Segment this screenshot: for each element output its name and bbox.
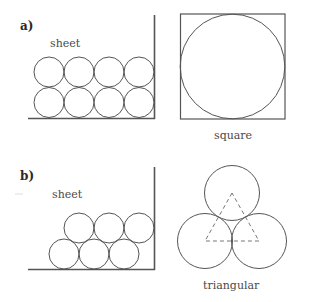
circle xyxy=(49,239,79,269)
bottom-right-circle xyxy=(232,214,287,269)
circle xyxy=(64,57,94,87)
inscribed-circle xyxy=(180,14,285,119)
panel-a-sheet-label: sheet xyxy=(50,37,81,50)
sheet-corner-a xyxy=(28,15,155,119)
triangular-packing-detail xyxy=(178,166,287,269)
triangular-stacked-circles xyxy=(49,213,154,269)
panel-a-label: a) xyxy=(20,19,33,33)
panel-b-sheet-label: sheet xyxy=(52,188,83,201)
circle xyxy=(79,239,109,269)
panel-a: a) sheet square xyxy=(20,14,285,142)
circle xyxy=(64,213,94,243)
circle xyxy=(34,88,64,118)
circle xyxy=(124,57,154,87)
sheet-corner-b xyxy=(28,167,155,270)
circle xyxy=(64,88,94,118)
panel-b-label: b) xyxy=(20,169,34,183)
square-packing-detail xyxy=(180,14,285,119)
panel-b: b) sheet triangular xyxy=(15,166,287,293)
circle xyxy=(124,88,154,118)
circle xyxy=(34,57,64,87)
circle xyxy=(94,213,124,243)
circle xyxy=(109,239,139,269)
bottom-left-circle xyxy=(178,214,233,269)
square-label: square xyxy=(214,129,252,142)
circle xyxy=(94,57,124,87)
circle xyxy=(124,213,154,243)
square-stacked-circles xyxy=(34,57,154,118)
triangular-label: triangular xyxy=(203,279,260,292)
packing-diagram: a) sheet square b) sheet xyxy=(0,0,312,302)
circle xyxy=(94,88,124,118)
